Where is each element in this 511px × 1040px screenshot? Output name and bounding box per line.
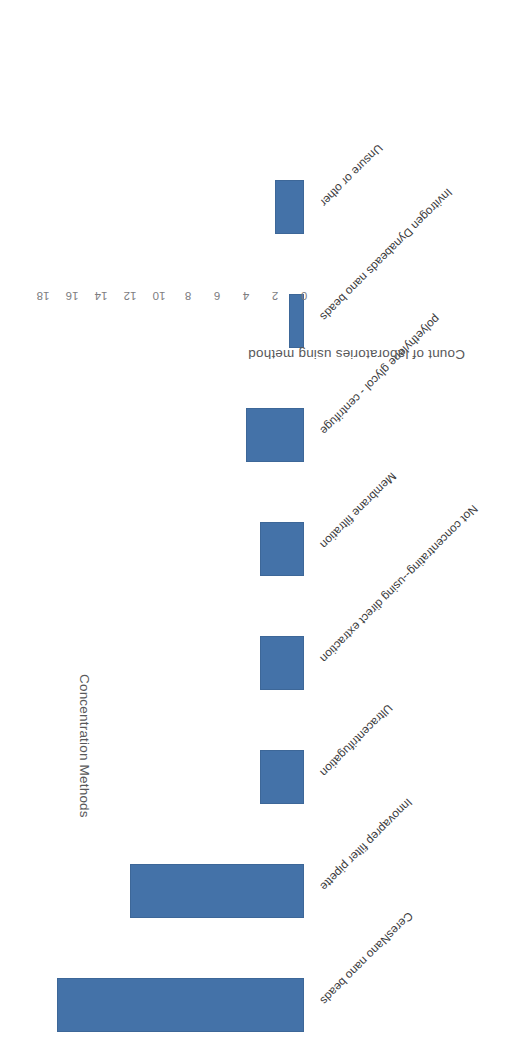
category-label-3: Ultracentrifugation <box>318 702 396 780</box>
value-axis-tick-16: 16 <box>66 290 79 302</box>
value-axis-tick-2: 2 <box>272 290 278 302</box>
value-axis-tick-4: 4 <box>243 290 249 302</box>
value-axis-tick-6: 6 <box>214 290 220 302</box>
bar-row: Not concentrating--using direct extracti… <box>0 576 511 690</box>
bar-5 <box>261 522 305 576</box>
bar-row: Unsure or other <box>0 120 511 234</box>
rotated-page-container: CeresNano nano beadsInnovaprep filter pi… <box>0 0 511 1040</box>
bar-6 <box>246 408 304 462</box>
value-axis-tick-10: 10 <box>153 290 166 302</box>
value-axis-tick-18: 18 <box>37 290 50 302</box>
value-axis-tick-14: 14 <box>95 290 108 302</box>
value-axis-tick-8: 8 <box>185 290 191 302</box>
value-axis-tick-12: 12 <box>124 290 137 302</box>
category-label-5: Membrane filtration <box>318 470 399 551</box>
bar-row: CeresNano nano beads <box>0 918 511 1032</box>
bar-2 <box>130 864 304 918</box>
value-axis-title: Count of laboratories using method <box>235 347 465 362</box>
bar-4 <box>261 636 305 690</box>
category-label-8: Unsure or other <box>318 142 386 210</box>
category-label-2: Innovaprep filter pipette <box>318 796 415 893</box>
value-axis-tick-0: 0 <box>301 290 307 302</box>
bar-row: Innovaprep filter pipette <box>0 804 511 918</box>
category-label-1: CeresNano nano beads <box>318 910 416 1008</box>
category-axis-title: Concentration Methods <box>77 674 92 818</box>
plot-area: CeresNano nano beadsInnovaprep filter pi… <box>0 302 511 1040</box>
bar-8 <box>275 180 304 234</box>
value-axis-tick-labels: 024681012141618 <box>0 280 511 302</box>
bar-chart-figure: CeresNano nano beadsInnovaprep filter pi… <box>0 0 511 1040</box>
bar-1 <box>58 978 305 1032</box>
bar-row: Membrane filtration <box>0 462 511 576</box>
bar-row: polyethylene glycol - centrifuge <box>0 348 511 462</box>
bar-7 <box>290 294 305 348</box>
bar-3 <box>261 750 305 804</box>
